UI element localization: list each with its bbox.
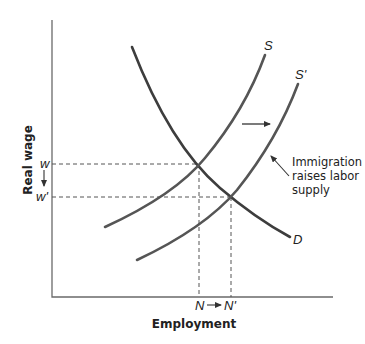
supply-shifted-label: S' (295, 67, 307, 82)
supply-label: S (264, 38, 273, 53)
demand-label: D (293, 232, 302, 247)
n-prime-label: N' (224, 298, 236, 313)
w-prime-label: w' (36, 189, 48, 204)
annotation-pointer-icon (271, 156, 289, 176)
x-axis-label: Employment (152, 317, 237, 331)
annotation-line-3: supply (292, 183, 330, 197)
demand-curve (132, 47, 290, 237)
w-label: w (40, 156, 51, 171)
y-axis-label: Real wage (21, 125, 35, 195)
annotation-line-2: raises labor (292, 169, 359, 183)
supply-curve (105, 55, 265, 227)
labor-market-diagram: S S' D w w' N N' Employment Real wage Im… (0, 0, 365, 344)
n-label: N (195, 298, 205, 313)
annotation-line-1: Immigration (292, 155, 362, 169)
